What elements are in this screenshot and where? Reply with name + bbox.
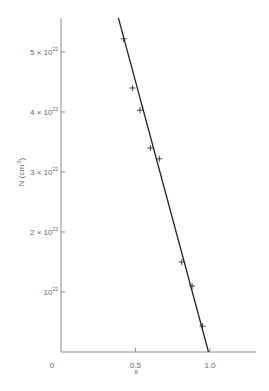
chart: 10222 × 10223 × 10224 × 10225 × 1022 0.5… xyxy=(0,0,269,391)
y-tick-label: 2 × 1022 xyxy=(30,226,58,237)
x-tick-label: 1.0 xyxy=(204,361,216,370)
fit-line xyxy=(118,18,208,352)
data-point xyxy=(130,85,136,91)
axes xyxy=(61,18,256,352)
y-ticks: 10222 × 10223 × 10224 × 10225 × 1022 xyxy=(30,46,65,297)
y-tick-label: 1022 xyxy=(44,286,59,297)
x-axis-label: x xyxy=(134,367,138,376)
y-tick-label: 3 × 1022 xyxy=(30,166,58,177)
x-ticks: 0.51.0 xyxy=(130,348,216,370)
svg-text:N (cm-3): N (cm-3) xyxy=(16,157,26,186)
y-axis-label: N (cm-3) xyxy=(16,157,26,186)
fit-line-path xyxy=(118,18,208,352)
data-point xyxy=(121,36,127,42)
origin-label: 0 xyxy=(50,361,55,370)
y-tick-label: 5 × 1022 xyxy=(30,46,58,57)
y-tick-label: 4 × 1022 xyxy=(30,106,58,117)
